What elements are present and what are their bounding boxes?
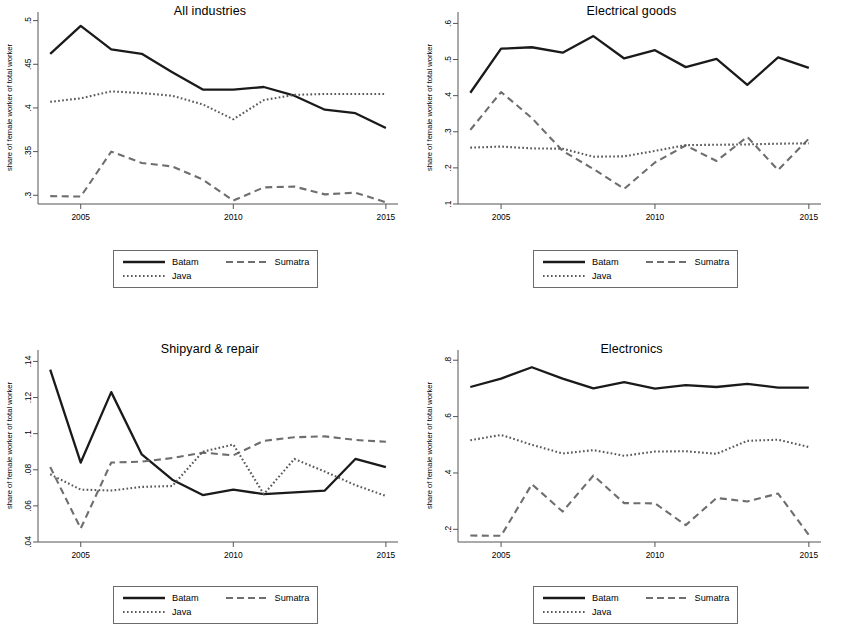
svg-text:.4: .4	[23, 104, 33, 111]
series-line-sumatra	[470, 475, 809, 535]
series-line-sumatra	[50, 436, 386, 528]
series-line-java	[470, 143, 809, 156]
svg-text:.08: .08	[23, 464, 33, 476]
legend-swatch-batam	[122, 257, 166, 267]
panel-shipyard-repair: Shipyard & repair share of female worker…	[0, 312, 420, 624]
svg-text:.3: .3	[443, 128, 453, 135]
plot-area: .2.4.6.8200520102015	[420, 338, 843, 588]
svg-text:.04: .04	[23, 536, 33, 548]
svg-text:.2: .2	[443, 525, 453, 532]
legend-swatch-sumatra	[225, 257, 269, 267]
svg-text:.5: .5	[23, 17, 33, 24]
chart-svg-shipyard-repair: .04.06.08.1.12.14200520102015	[0, 338, 420, 588]
svg-text:.6: .6	[443, 413, 453, 420]
legend-entry-java: Java	[542, 605, 611, 619]
legend: Batam Sumatra Java	[113, 586, 318, 624]
legend-swatch-batam	[542, 593, 586, 603]
legend-entry-java: Java	[122, 269, 191, 283]
legend: Batam Sumatra Java	[533, 586, 738, 624]
plot-area: .3.35.4.45.5200520102015	[0, 0, 420, 250]
panel-all-industries: All industries share of female worker of…	[0, 0, 420, 312]
series-line-java	[470, 435, 809, 456]
svg-text:2015: 2015	[800, 212, 819, 222]
chart-svg-electrical-goods: .1.2.3.4.5.6200520102015	[420, 0, 843, 250]
legend-label-batam: Batam	[592, 593, 619, 603]
series-line-sumatra	[50, 152, 386, 203]
legend-swatch-sumatra	[645, 593, 689, 603]
legend-label-sumatra: Sumatra	[275, 257, 310, 267]
legend-entry-batam: Batam	[542, 591, 619, 605]
series-line-batam	[470, 36, 809, 93]
svg-text:2010: 2010	[224, 212, 243, 222]
legend-swatch-sumatra	[645, 257, 689, 267]
svg-text:2005: 2005	[492, 550, 511, 560]
svg-text:2010: 2010	[646, 550, 665, 560]
legend-entry-sumatra: Sumatra	[645, 255, 730, 269]
svg-text:.4: .4	[443, 469, 453, 476]
svg-text:.3: .3	[23, 191, 33, 198]
svg-text:.2: .2	[443, 164, 453, 171]
legend-swatch-java	[542, 607, 586, 617]
legend-label-java: Java	[592, 607, 611, 617]
legend-entry-java: Java	[542, 269, 611, 283]
svg-text:2015: 2015	[377, 212, 396, 222]
legend-entry-sumatra: Sumatra	[225, 255, 310, 269]
chart-svg-electronics: .2.4.6.8200520102015	[420, 338, 843, 588]
legend-swatch-java	[542, 271, 586, 281]
svg-text:.12: .12	[23, 391, 33, 403]
series-line-batam	[470, 367, 809, 388]
legend-label-java: Java	[172, 607, 191, 617]
panel-electrical-goods: Electrical goods share of female worker …	[420, 0, 843, 312]
legend-label-batam: Batam	[172, 593, 199, 603]
legend-label-java: Java	[592, 271, 611, 281]
legend-label-batam: Batam	[592, 257, 619, 267]
svg-text:.14: .14	[23, 355, 33, 367]
svg-text:2005: 2005	[492, 212, 511, 222]
svg-text:.06: .06	[23, 500, 33, 512]
svg-text:2015: 2015	[800, 550, 819, 560]
svg-text:.35: .35	[23, 145, 33, 157]
legend-entry-batam: Batam	[122, 591, 199, 605]
svg-text:2010: 2010	[646, 212, 665, 222]
svg-text:.8: .8	[443, 356, 453, 363]
legend-entry-sumatra: Sumatra	[645, 591, 730, 605]
plot-area: .04.06.08.1.12.14200520102015	[0, 338, 420, 588]
legend-swatch-java	[122, 607, 166, 617]
chart-svg-all-industries: .3.35.4.45.5200520102015	[0, 0, 420, 250]
svg-text:.1: .1	[443, 200, 453, 207]
svg-text:.1: .1	[23, 430, 33, 437]
legend-label-batam: Batam	[172, 257, 199, 267]
panel-electronics: Electronics share of female worker of to…	[420, 312, 843, 624]
figure-grid: All industries share of female worker of…	[0, 0, 843, 624]
series-line-java	[50, 444, 386, 495]
legend-swatch-batam	[542, 257, 586, 267]
plot-area: .1.2.3.4.5.6200520102015	[420, 0, 843, 250]
legend-entry-sumatra: Sumatra	[225, 591, 310, 605]
svg-text:2005: 2005	[71, 212, 90, 222]
svg-text:.6: .6	[443, 20, 453, 27]
svg-text:.4: .4	[443, 92, 453, 99]
legend-swatch-sumatra	[225, 593, 269, 603]
svg-text:2015: 2015	[377, 550, 396, 560]
legend: Batam Sumatra Java	[113, 250, 318, 288]
series-line-java	[50, 91, 386, 119]
legend-entry-batam: Batam	[542, 255, 619, 269]
legend-label-sumatra: Sumatra	[275, 593, 310, 603]
legend-swatch-java	[122, 271, 166, 281]
svg-text:.45: .45	[23, 58, 33, 70]
legend: Batam Sumatra Java	[533, 250, 738, 288]
svg-text:.5: .5	[443, 56, 453, 63]
legend-label-sumatra: Sumatra	[695, 593, 730, 603]
legend-label-sumatra: Sumatra	[695, 257, 730, 267]
legend-label-java: Java	[172, 271, 191, 281]
legend-swatch-batam	[122, 593, 166, 603]
svg-text:2005: 2005	[71, 550, 90, 560]
legend-entry-batam: Batam	[122, 255, 199, 269]
svg-text:2010: 2010	[224, 550, 243, 560]
series-line-sumatra	[470, 92, 809, 189]
legend-entry-java: Java	[122, 605, 191, 619]
